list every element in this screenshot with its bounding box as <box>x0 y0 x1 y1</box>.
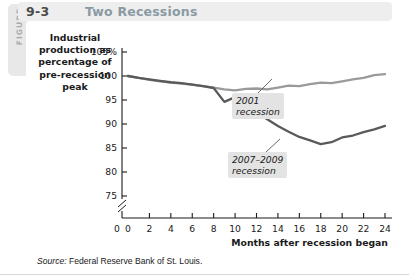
svg-text:0: 0 <box>125 223 131 234</box>
svg-text:12: 12 <box>251 223 263 234</box>
svg-text:20: 20 <box>336 223 348 234</box>
svg-text:24: 24 <box>379 223 391 234</box>
source-text: Federal Reserve Bank of St. Louis. <box>67 256 203 266</box>
svg-text:85: 85 <box>105 142 117 153</box>
svg-text:6: 6 <box>189 223 195 234</box>
svg-text:8: 8 <box>211 223 217 234</box>
svg-text:90: 90 <box>105 118 117 129</box>
svg-text:18: 18 <box>315 223 327 234</box>
chart-axes <box>118 48 392 218</box>
svg-text:100: 100 <box>99 70 117 81</box>
svg-text:95: 95 <box>105 94 117 105</box>
bottom-divider <box>0 274 409 275</box>
source-prefix: Source: <box>37 256 67 266</box>
svg-text:16: 16 <box>293 223 305 234</box>
chart-ticks: 7580859095100105%0024681012141618202224 <box>91 46 391 234</box>
chart-plot: 7580859095100105%0024681012141618202224 … <box>0 0 409 280</box>
svg-text:2: 2 <box>146 223 152 234</box>
svg-text:10: 10 <box>229 223 241 234</box>
svg-text:0: 0 <box>114 223 120 234</box>
svg-text:14: 14 <box>272 223 284 234</box>
source-note: Source: Federal Reserve Bank of St. Loui… <box>37 256 202 266</box>
x-axis-title: Months after recession began <box>231 237 388 248</box>
svg-text:4: 4 <box>168 223 174 234</box>
annotation-2001-recession: 2001 recession <box>232 93 284 119</box>
svg-text:105%: 105% <box>91 46 118 57</box>
svg-text:22: 22 <box>358 223 370 234</box>
figure-container: FIGURE 9-3 Two Recessions Industrial pro… <box>0 0 409 280</box>
svg-text:75: 75 <box>105 190 117 201</box>
svg-text:80: 80 <box>105 166 117 177</box>
annotation-2007-2009-recession: 2007–2009 recession <box>228 152 287 178</box>
